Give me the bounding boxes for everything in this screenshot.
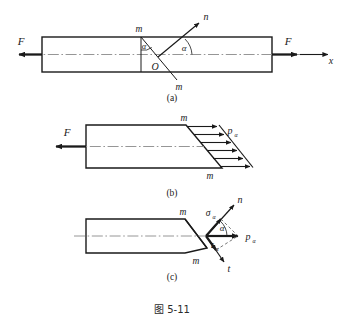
shear-stress-label-c: τ α	[210, 240, 219, 252]
section-label-bottom-a: m	[176, 82, 183, 92]
section-label-top-a: m	[136, 24, 143, 34]
part-label-a: (a)	[167, 93, 178, 104]
mechanics-figure: F F x m m n α α O (a)	[0, 0, 345, 322]
part-c-group: m m n t σ α τ α p α	[74, 194, 256, 283]
section-label-top-b: m	[181, 113, 188, 123]
normal-stress-symbol-c: σ	[206, 208, 211, 218]
origin-label-a: O	[151, 61, 158, 72]
total-stress-subscript-c: α	[252, 238, 256, 244]
angle-label-c: α	[220, 223, 225, 233]
total-stress-subscript-b: α	[234, 132, 238, 138]
figure-caption: 图 5-11	[154, 304, 190, 315]
normal-label-a: n	[204, 11, 209, 22]
normal-stress-subscript-c: α	[212, 214, 216, 220]
part-b-group: F m m p α (b)	[56, 113, 253, 199]
angle-label-section-a: α	[142, 41, 147, 51]
construction-dashed-lower-c	[216, 236, 238, 250]
force-label-right-a: F	[284, 35, 292, 47]
tangent-axis-label-c: t	[228, 263, 231, 274]
section-label-bottom-b: m	[207, 171, 214, 181]
normal-arrow-a	[158, 23, 199, 57]
part-a-group: F F x m m n α α O (a)	[17, 11, 334, 104]
normal-axis-label-c: n	[238, 194, 243, 205]
total-stress-label-c: p α	[245, 231, 257, 244]
total-stress-symbol-b: p	[227, 125, 233, 136]
inclined-section-line-a	[141, 37, 177, 80]
figure-container: F F x m m n α α O (a)	[0, 0, 345, 322]
stress-distribution-arrows-b	[187, 127, 250, 167]
force-label-left-b: F	[63, 126, 71, 138]
shear-stress-symbol-c: τ	[210, 240, 214, 250]
part-label-b: (b)	[166, 188, 177, 199]
section-label-bottom-c: m	[193, 256, 200, 266]
cut-edge-upper-c	[185, 219, 207, 248]
section-label-top-c: m	[180, 207, 187, 217]
part-label-c: (c)	[167, 272, 178, 283]
total-stress-symbol-c: p	[245, 231, 251, 242]
force-label-left-a: F	[17, 35, 25, 47]
angle-label-axis-a: α	[182, 43, 187, 53]
x-axis-label-a: x	[328, 55, 334, 66]
normal-stress-label-c: σ α	[206, 208, 217, 220]
